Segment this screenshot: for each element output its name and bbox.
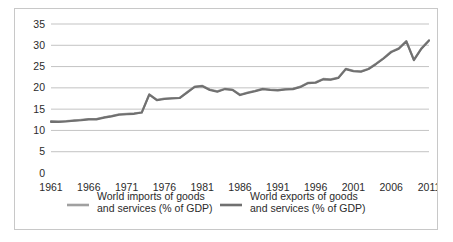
y-tick-label-15: 15 bbox=[33, 103, 45, 115]
chart-figure: 05101520253035 1961196619711976198119861… bbox=[14, 8, 438, 230]
gridlines-group bbox=[51, 24, 429, 152]
y-tick-label-0: 0 bbox=[39, 167, 45, 179]
series-line-exports bbox=[51, 41, 429, 122]
y-axis-tick-labels: 05101520253035 bbox=[33, 18, 45, 179]
data-series-group bbox=[51, 40, 429, 122]
x-tick-label-2011: 2011 bbox=[418, 181, 437, 193]
x-tick-label-2006: 2006 bbox=[380, 181, 404, 193]
x-tick-label-1961: 1961 bbox=[39, 181, 63, 193]
legend-label-exports-line2: and services (% of GDP) bbox=[250, 202, 366, 214]
legend-label-exports-line1: World exports of goods bbox=[250, 190, 358, 202]
y-tick-label-30: 30 bbox=[33, 39, 45, 51]
x-tick-label-1986: 1986 bbox=[228, 181, 252, 193]
y-tick-label-35: 35 bbox=[33, 18, 45, 30]
legend-label-imports-line1: World imports of goods bbox=[97, 190, 205, 202]
y-tick-label-20: 20 bbox=[33, 81, 45, 93]
chart-legend: World imports of goodsand services (% of… bbox=[67, 190, 366, 214]
y-tick-label-10: 10 bbox=[33, 124, 45, 136]
y-tick-label-25: 25 bbox=[33, 60, 45, 72]
legend-label-imports-line2: and services (% of GDP) bbox=[97, 202, 213, 214]
line-chart: 05101520253035 1961196619711976198119861… bbox=[15, 9, 437, 229]
y-tick-label-5: 5 bbox=[39, 145, 45, 157]
